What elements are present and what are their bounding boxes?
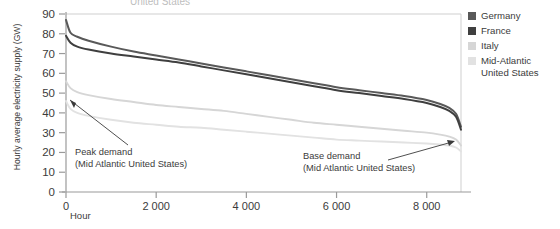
legend: Germany France Italy Mid-Atlantic United… [468, 10, 560, 82]
legend-swatch-italy [468, 42, 476, 50]
peak-demand-leader-line [70, 100, 128, 145]
x-tick-label: 2 000 [142, 200, 170, 212]
chart-root: United States Hourly average electricity… [0, 0, 560, 229]
y-tick-label: 40 [42, 107, 55, 119]
legend-label-mid-atlantic-united-states: Mid-Atlantic United States [481, 55, 539, 78]
y-tick-label: 60 [42, 67, 55, 79]
legend-item-mid-atlantic-united-states[interactable]: Mid-Atlantic United States [468, 55, 560, 78]
y-tick-label: 80 [42, 28, 55, 40]
legend-item-germany[interactable]: Germany [468, 10, 560, 22]
annotation-base-demand: Base demand (Mid Atlantic United States) [303, 151, 415, 174]
y-tick-label: 0 [49, 186, 55, 198]
y-tick-label: 90 [42, 8, 55, 20]
annotation-peak-demand: Peak demand (Mid Atlantic United States) [75, 147, 187, 170]
legend-label-france: France [481, 25, 511, 37]
series-line-italy [66, 81, 461, 145]
peak-demand-arrowhead [70, 100, 76, 108]
y-tick-label: 50 [42, 87, 55, 99]
x-tick-label: 0 [63, 200, 69, 212]
legend-item-france[interactable]: France [468, 25, 560, 37]
x-tick-label: 8 000 [413, 200, 441, 212]
x-tick-label: 4 000 [233, 200, 261, 212]
legend-swatch-mid-atlantic-united-states [468, 57, 476, 65]
legend-label-germany: Germany [481, 10, 520, 22]
y-tick-label: 30 [42, 127, 55, 139]
y-tick-label: 70 [42, 48, 55, 60]
legend-swatch-france [468, 27, 476, 35]
series-line-mid-atlantic-united-states [66, 101, 461, 151]
legend-item-italy[interactable]: Italy [468, 40, 560, 52]
legend-swatch-germany [468, 12, 476, 20]
x-tick-label: 6 000 [323, 200, 351, 212]
legend-label-italy: Italy [481, 40, 499, 52]
y-tick-label: 20 [42, 146, 55, 158]
y-tick-label: 10 [42, 166, 55, 178]
series-line-germany [66, 20, 461, 127]
